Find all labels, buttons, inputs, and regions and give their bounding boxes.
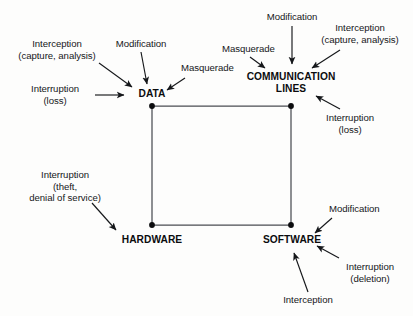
diagram-canvas: Interception (capture, analysis) Modific… <box>0 0 413 316</box>
label-comm-interruption: Interruption (loss) <box>311 112 389 135</box>
arrow-data-modification <box>141 52 147 84</box>
square-edges <box>152 106 291 225</box>
node-label-comm-line2: LINES <box>231 83 351 95</box>
node-label-software: SOFTWARE <box>248 234 336 246</box>
label-data-interception: Interception (capture, analysis) <box>4 38 110 61</box>
label-software-interruption: Interruption (deletion) <box>330 261 410 284</box>
arrow-software-interception <box>294 253 308 292</box>
node-dot-software <box>288 222 294 228</box>
hardware-threat-arrows <box>92 203 116 230</box>
arrow-software-interruption <box>317 246 339 258</box>
label-comm-masquerade: Masquerade <box>222 43 284 55</box>
node-dots <box>149 103 294 228</box>
label-software-modification: Modification <box>329 203 407 215</box>
node-dot-comm <box>288 103 294 109</box>
arrow-software-modification <box>315 218 332 233</box>
arrow-comm-masquerade <box>250 57 265 68</box>
label-data-modification: Modification <box>102 38 180 50</box>
node-dot-data <box>149 103 155 109</box>
node-label-hardware: HARDWARE <box>104 234 200 246</box>
node-label-data: DATA <box>127 88 177 100</box>
arrow-hardware-interruption <box>92 203 116 230</box>
label-comm-modification: Modification <box>253 11 331 23</box>
node-label-comm-line1: COMMUNICATION <box>231 71 351 83</box>
arrow-comm-interception <box>312 50 340 68</box>
label-comm-interception: Interception (capture, analysis) <box>308 22 412 45</box>
label-data-interruption: Interruption (loss) <box>16 83 94 106</box>
label-software-interception: Interception <box>272 294 344 306</box>
label-hardware-interruption: Interruption (theft, denial of service) <box>10 169 120 204</box>
node-dot-hardware <box>149 222 155 228</box>
arrow-data-interception <box>99 63 132 87</box>
arrow-comm-interruption <box>316 96 340 109</box>
